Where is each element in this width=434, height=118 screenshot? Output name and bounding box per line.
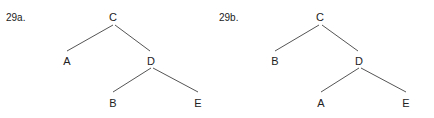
edge-29a-d-left (113, 68, 151, 92)
edge-29b-c-d (322, 25, 358, 51)
tree-29b-right-right-node: E (402, 98, 409, 109)
tree-29b-right-left-node: A (317, 98, 324, 109)
edge-29a-d-right (153, 68, 198, 92)
edge-29a-c-d (115, 25, 150, 51)
edge-29a-c-left (67, 25, 113, 51)
tree-29a-right-left-node: B (109, 98, 116, 109)
edge-29b-c-left (275, 25, 319, 51)
tree-29a-right-node: D (147, 56, 155, 67)
tree-29a-left-node: A (63, 56, 70, 67)
tree-29b-left-node: B (271, 56, 278, 67)
tree-29a-right-right-node: E (194, 98, 201, 109)
tree-29b-right-node: D (355, 56, 363, 67)
edge-29b-d-right (361, 68, 406, 92)
figure-label-29b: 29b. (219, 13, 238, 23)
figure-label-29a: 29a. (6, 13, 25, 23)
tree-29a-root-node: C (109, 12, 117, 23)
tree-29b-root-node: C (316, 12, 324, 23)
edge-29b-d-left (321, 68, 359, 92)
